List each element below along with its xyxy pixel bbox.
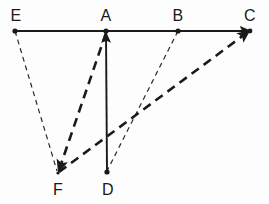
- point-label-B: B: [173, 8, 184, 24]
- point-marker-B: [175, 28, 180, 33]
- point-marker-E: [12, 28, 17, 33]
- point-marker-A: [103, 28, 108, 33]
- segment-BD: [107, 31, 178, 171]
- point-marker-F: [56, 171, 59, 174]
- segment-FC: [59, 32, 248, 172]
- diagram-canvas: E A B C F D: [0, 0, 269, 204]
- point-label-F: F: [53, 182, 63, 198]
- geometry-figure: [0, 0, 269, 204]
- segment-DA: [106, 33, 107, 172]
- segment-EF: [15, 31, 57, 171]
- point-marker-C: [248, 29, 253, 34]
- point-label-C: C: [244, 8, 256, 24]
- point-label-D: D: [102, 182, 114, 198]
- point-label-A: A: [101, 8, 112, 24]
- point-label-E: E: [11, 8, 22, 24]
- segment-AF: [59, 33, 106, 170]
- point-marker-D: [104, 169, 109, 174]
